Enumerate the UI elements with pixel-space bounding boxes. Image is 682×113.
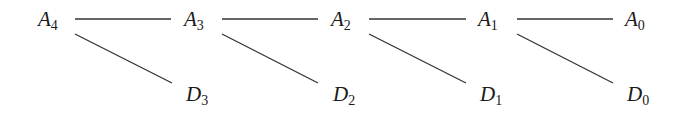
node-letter: D <box>186 82 201 106</box>
edge-a4-d3 <box>75 34 172 83</box>
node-a3: A3 <box>184 9 204 33</box>
edge-a2-d1 <box>369 34 466 83</box>
node-index: 1 <box>491 18 498 33</box>
node-index: 0 <box>638 18 645 33</box>
node-letter: A <box>625 7 638 31</box>
node-index: 3 <box>197 18 204 33</box>
node-letter: A <box>38 7 51 31</box>
node-index: 4 <box>51 18 58 33</box>
node-letter: A <box>184 7 197 31</box>
node-d2: D2 <box>333 84 355 108</box>
node-letter: D <box>480 82 495 106</box>
node-index: 2 <box>348 93 355 108</box>
node-letter: A <box>331 7 344 31</box>
node-index: 1 <box>495 93 502 108</box>
edge-a3-d2 <box>222 34 318 83</box>
node-letter: D <box>333 82 348 106</box>
node-index: 3 <box>201 93 208 108</box>
node-index: 0 <box>642 93 649 108</box>
node-d0: D0 <box>627 84 649 108</box>
node-a0: A0 <box>625 9 645 33</box>
node-letter: A <box>478 7 491 31</box>
node-d3: D3 <box>186 84 208 108</box>
node-a2: A2 <box>331 9 351 33</box>
node-letter: D <box>627 82 642 106</box>
node-a4: A4 <box>38 9 58 33</box>
node-d1: D1 <box>480 84 502 108</box>
node-index: 2 <box>344 18 351 33</box>
node-a1: A1 <box>478 9 498 33</box>
edge-a1-d0 <box>517 34 613 83</box>
